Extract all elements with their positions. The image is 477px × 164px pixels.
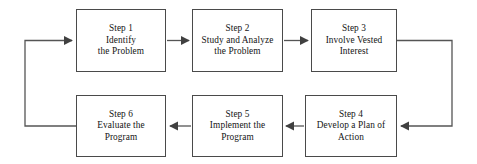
step-3-line-3: Interest — [340, 46, 369, 58]
step-box-3[interactable]: Step 3 Involve Vested Interest — [311, 9, 397, 72]
step-1-line-2: Identify — [106, 35, 136, 47]
step-4-line-2: Develop a Plan of — [317, 120, 386, 132]
step-5-line-3: Program — [221, 132, 254, 144]
step-5-title: Step 5 — [225, 109, 249, 121]
step-box-5[interactable]: Step 5 Implement the Program — [192, 95, 283, 157]
step-box-4[interactable]: Step 4 Develop a Plan of Action — [305, 95, 397, 157]
step-box-2[interactable]: Step 2 Study and Analyze the Problem — [192, 9, 283, 72]
step-6-line-3: Program — [105, 132, 138, 144]
step-2-line-3: the Problem — [214, 46, 260, 58]
step-3-line-2: Involve Vested — [326, 35, 383, 47]
step-2-title: Step 2 — [225, 23, 249, 35]
step-1-title: Step 1 — [109, 23, 133, 35]
step-box-1[interactable]: Step 1 Identify the Problem — [76, 9, 166, 72]
step-1-line-3: the Problem — [98, 46, 144, 58]
step-4-line-3: Action — [338, 132, 364, 144]
step-box-6[interactable]: Step 6 Evaluate the Program — [76, 95, 166, 157]
connector-step6-to-step1-feedback — [25, 41, 76, 127]
step-2-line-2: Study and Analyze — [202, 35, 274, 47]
flowchart-canvas: Step 1 Identify the Problem Step 2 Study… — [0, 0, 477, 164]
step-6-line-2: Evaluate the — [97, 120, 144, 132]
connector-step3-to-step4 — [397, 41, 452, 127]
step-4-title: Step 4 — [339, 109, 363, 121]
step-6-title: Step 6 — [109, 109, 133, 121]
step-5-line-2: Implement the — [210, 120, 265, 132]
step-3-title: Step 3 — [342, 23, 366, 35]
